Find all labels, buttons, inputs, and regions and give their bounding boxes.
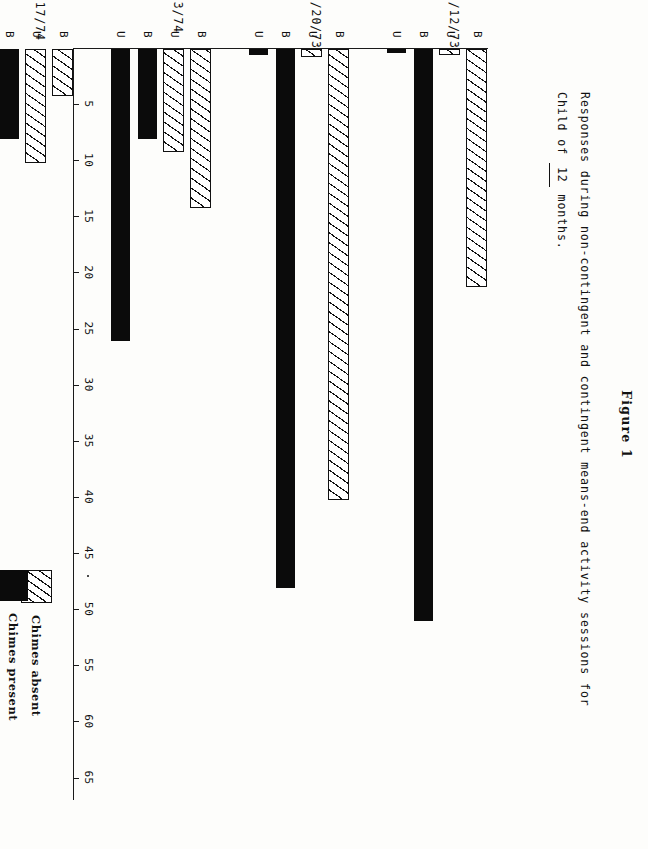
bar-tag-label: B: [276, 31, 295, 38]
bar-tag-label: B: [414, 31, 433, 38]
legend: Chimes absentChimes present BBilateral a…: [0, 570, 48, 790]
axis-tick: [73, 553, 79, 554]
bar-tag-label: U: [387, 31, 406, 38]
plot-area: 5101520253035404550556065 BUBUBUBUBUBUBU…: [73, 48, 493, 808]
axis-tick: [73, 497, 79, 498]
bar: [52, 49, 73, 96]
bar-tag-label: B: [468, 31, 487, 38]
bar: [190, 49, 211, 208]
category-label: 12/12/73: [447, 0, 461, 49]
bar: [111, 49, 130, 341]
category-label: 1/17/74: [33, 0, 47, 41]
figure-canvas: Figure 1 Responses during non-contingent…: [0, 0, 648, 849]
bar: [276, 49, 295, 588]
caption-line-2-prefix: Child of: [555, 92, 569, 155]
axis-tick: [73, 721, 79, 722]
figure-caption: Responses during non-contingent and cont…: [549, 92, 596, 782]
axis-tick-label: 30: [82, 378, 95, 392]
bar: [249, 49, 268, 55]
axis-tick: [73, 778, 79, 779]
axis-tick-label: 20: [82, 265, 95, 279]
legend-key-row: Chimes present: [2, 570, 25, 790]
legend-key-row: Chimes absent: [25, 570, 48, 790]
bar: [387, 49, 406, 53]
axis-tick-label: 10: [82, 153, 95, 167]
legend-key-label: Chimes present: [7, 613, 21, 721]
legend-abbreviations: BBilateral arm movementUUnilateral arm m…: [0, 570, 2, 790]
bar-tag-label: B: [330, 31, 349, 38]
axis-tick: [73, 216, 79, 217]
bar: [138, 49, 157, 139]
bar-tag-label: U: [111, 31, 130, 38]
axis-tick: [73, 385, 79, 386]
axis-tick: [73, 441, 79, 442]
bar-tag-label: U: [249, 31, 268, 38]
solid-black-swatch: [0, 570, 28, 601]
caption-blank-value: 12: [549, 163, 573, 187]
category-label: 1/3/74: [171, 0, 185, 33]
axis-tick-label: 45: [82, 546, 95, 560]
axis-tick-label: 55: [82, 658, 95, 672]
bar: [301, 49, 322, 57]
bar: [414, 49, 433, 621]
axis-tick: [73, 272, 79, 273]
figure-number: Figure 1: [619, 0, 634, 849]
axis-tick-label: 15: [82, 209, 95, 223]
bar-tag-label: B: [192, 31, 211, 38]
axis-tick: [73, 104, 79, 105]
axis-tick-label: 25: [82, 321, 95, 335]
bar: [328, 49, 349, 500]
axis-tick: [73, 160, 79, 161]
bar: [439, 49, 460, 55]
axis-tick-label: 5: [82, 101, 95, 108]
bar: [163, 49, 184, 152]
axis-tick-label: 60: [82, 714, 95, 728]
category-label: 12/20/73: [309, 0, 323, 49]
legend-keys: Chimes absentChimes present: [2, 570, 48, 790]
axis-tick: [73, 665, 79, 666]
abbreviation-letter: B: [0, 570, 2, 601]
caption-line-1: Responses during non-contingent and cont…: [578, 92, 592, 707]
bar: [466, 49, 487, 287]
axis-tick: [73, 609, 79, 610]
axis-tick-label: 65: [82, 770, 95, 784]
axis-tick: [73, 329, 79, 330]
axis-tick-label: 50: [82, 602, 95, 616]
axis-tick-label: 40: [82, 490, 95, 504]
legend-abbreviation-row: BBilateral arm movement: [0, 570, 2, 790]
legend-key-label: Chimes absent: [30, 615, 44, 717]
axis-tick-label: 35: [82, 434, 95, 448]
bar: [25, 49, 46, 163]
bar-tag-label: B: [54, 31, 73, 38]
abbreviation-meaning: Bilateral arm movement: [0, 613, 1, 782]
bar-tag-label: B: [138, 31, 157, 38]
bar: [0, 49, 19, 139]
caption-line-2-suffix: months.: [555, 195, 569, 250]
bar-tag-label: B: [0, 31, 19, 38]
stray-ink-mark: [87, 575, 89, 577]
